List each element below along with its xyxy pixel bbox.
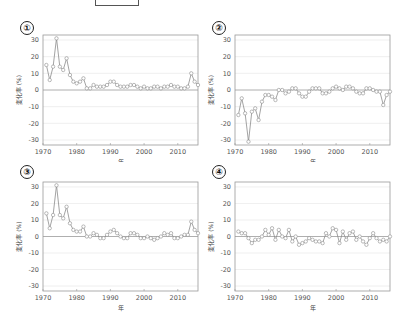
chart-panel-3: ③ 3020100-10-20-3019701980199020002010年変… (0, 160, 204, 322)
data-point (361, 240, 364, 243)
y-tick-label: -20 (28, 266, 39, 274)
data-point (257, 238, 260, 241)
data-point (237, 230, 240, 233)
data-point (368, 236, 371, 239)
data-point (301, 95, 304, 98)
data-point (139, 87, 142, 90)
data-point (75, 230, 78, 233)
x-axis-label: 年 (118, 304, 124, 312)
data-point (95, 233, 98, 236)
y-tick-label: 20 (223, 200, 231, 208)
y-tick-label: -20 (220, 266, 231, 274)
data-point (341, 230, 344, 233)
x-tick-label: 1990 (294, 148, 311, 156)
x-tick-label: 2000 (328, 148, 345, 156)
data-point (365, 87, 368, 90)
data-point (277, 228, 280, 231)
data-point (274, 98, 277, 101)
data-point (277, 88, 280, 91)
data-point (378, 90, 381, 93)
data-point (341, 88, 344, 91)
data-point (314, 240, 317, 243)
data-point (156, 236, 159, 239)
x-axis-label: 年 (310, 304, 316, 312)
data-point (301, 241, 304, 244)
data-point (351, 230, 354, 233)
data-point (260, 235, 263, 238)
y-axis-label: 変化率 (%) (15, 75, 23, 105)
data-point (324, 92, 327, 95)
data-point (136, 233, 139, 236)
data-point (190, 220, 193, 223)
data-point (132, 83, 135, 86)
data-point (62, 68, 65, 71)
y-axis-label: 変化率 (%) (207, 221, 215, 251)
data-point (240, 231, 243, 234)
data-point (99, 85, 102, 88)
y-tick-label: -30 (28, 282, 39, 290)
data-point (119, 85, 122, 88)
data-point (169, 83, 172, 86)
data-point (321, 241, 324, 244)
data-point (102, 236, 105, 239)
data-point (109, 80, 112, 83)
data-point (264, 228, 267, 231)
data-point (122, 236, 125, 239)
data-point (307, 90, 310, 93)
data-point (284, 236, 287, 239)
data-point (88, 87, 91, 90)
data-line (238, 87, 390, 142)
x-tick-label: 1980 (260, 148, 277, 156)
data-point (237, 113, 240, 116)
data-point (105, 83, 108, 86)
data-point (321, 92, 324, 95)
chart-panel-2: ② 3020100-10-20-3019701980199020002010年変… (203, 0, 407, 162)
data-point (385, 93, 388, 96)
data-point (287, 228, 290, 231)
data-point (382, 238, 385, 241)
data-point (328, 235, 331, 238)
data-point (304, 95, 307, 98)
data-point (115, 231, 118, 234)
data-point (243, 112, 246, 115)
data-point (371, 88, 374, 91)
data-point (72, 80, 75, 83)
data-point (112, 80, 115, 83)
data-point (122, 85, 125, 88)
y-tick-label: -10 (220, 103, 231, 111)
data-point (149, 236, 152, 239)
data-point (58, 213, 61, 216)
data-point (166, 233, 169, 236)
chart-panel-1: ① 3020100-10-20-3019701980199020002010年変… (0, 0, 204, 162)
y-tick-label: 0 (227, 86, 231, 94)
data-point (334, 228, 337, 231)
data-point (139, 236, 142, 239)
y-tick-label: 20 (31, 200, 39, 208)
x-tick-label: 1970 (35, 294, 52, 302)
y-axis-label: 変化率 (%) (15, 221, 23, 251)
data-point (280, 235, 283, 238)
data-point (186, 85, 189, 88)
data-point (183, 233, 186, 236)
x-tick-label: 2010 (170, 294, 187, 302)
data-point (152, 238, 155, 241)
data-point (361, 92, 364, 95)
data-point (85, 87, 88, 90)
y-tick-label: 10 (31, 70, 39, 78)
data-point (126, 85, 129, 88)
x-tick-label: 1970 (227, 294, 244, 302)
data-point (287, 90, 290, 93)
data-point (132, 231, 135, 234)
data-point (48, 227, 51, 230)
data-point (388, 90, 391, 93)
x-tick-label: 1990 (102, 148, 119, 156)
data-point (193, 228, 196, 231)
y-tick-label: 30 (223, 183, 231, 191)
data-point (65, 205, 68, 208)
data-point (186, 233, 189, 236)
data-point (307, 236, 310, 239)
data-point (82, 77, 85, 80)
data-point (351, 87, 354, 90)
data-point (378, 240, 381, 243)
data-point (142, 236, 145, 239)
